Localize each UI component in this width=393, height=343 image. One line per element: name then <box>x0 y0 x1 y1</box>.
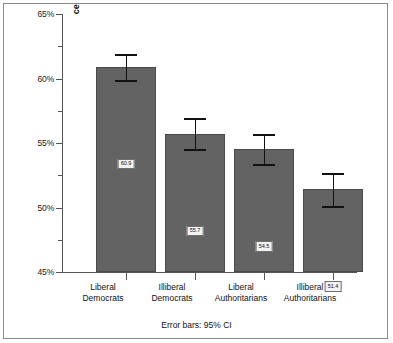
y-tick-label: 45% <box>38 267 54 277</box>
error-bar-stem <box>264 134 265 164</box>
y-axis-tick-labels: 65% 60% 55% 50% 45% <box>20 14 54 272</box>
y-tick-major <box>56 272 62 273</box>
y-tick-minor <box>58 46 62 47</box>
y-tick-label: 55% <box>38 138 54 148</box>
category-label-illiberal-authoritarians: Illiberal Authoritarians <box>284 282 336 304</box>
bar-value-label: 60.9 <box>118 159 135 170</box>
chart-screenshot: Mean Scale of Political Tolerance 65% 60… <box>0 0 393 343</box>
error-bar-stem <box>195 118 196 149</box>
error-bar-cap <box>184 149 206 151</box>
category-label-illiberal-democrats: Illiberal Democrats <box>151 282 192 304</box>
category-label-line: Liberal <box>82 282 123 293</box>
bar-value-label: 55.7 <box>187 226 204 237</box>
y-tick-major <box>56 14 62 15</box>
y-tick-minor <box>58 175 62 176</box>
error-bar-cap <box>115 80 137 82</box>
bar-value-label: 54.5 <box>256 241 273 252</box>
y-tick-major <box>56 143 62 144</box>
error-bar-cap <box>253 134 275 136</box>
error-bar-stem <box>333 173 334 207</box>
error-bar-cap <box>184 118 206 120</box>
x-tick <box>264 273 265 280</box>
x-tick <box>333 273 334 280</box>
error-bar-note: Error bars: 95% CI <box>0 320 393 330</box>
x-axis-category-labels: Liberal Democrats Illiberal Democrats Li… <box>62 282 357 314</box>
category-label-line: Illiberal <box>284 282 336 293</box>
x-tick <box>126 273 127 280</box>
bar <box>234 149 294 272</box>
y-axis-line <box>62 14 63 272</box>
y-tick-major <box>56 208 62 209</box>
category-label-line: Authoritarians <box>215 293 267 304</box>
error-bar-cap <box>322 206 344 208</box>
error-bar-cap <box>322 173 344 175</box>
y-tick-minor <box>58 111 62 112</box>
y-tick-label: 60% <box>38 74 54 84</box>
y-tick-label: 50% <box>38 203 54 213</box>
y-tick-major <box>56 79 62 80</box>
y-tick-minor <box>58 240 62 241</box>
error-bar-cap <box>115 54 137 56</box>
y-tick-label: 65% <box>38 9 54 19</box>
category-label-line: Liberal <box>215 282 267 293</box>
plot-area: 60.955.754.551.4 <box>62 14 357 272</box>
error-bar-stem <box>126 54 127 80</box>
x-axis-line <box>59 272 357 273</box>
category-label-line: Authoritarians <box>284 293 336 304</box>
category-label-line: Democrats <box>151 293 192 304</box>
category-label-liberal-authoritarians: Liberal Authoritarians <box>215 282 267 304</box>
x-tick <box>195 273 196 280</box>
error-bar-cap <box>253 164 275 166</box>
bar <box>165 134 225 272</box>
category-label-line: Illiberal <box>151 282 192 293</box>
category-label-line: Democrats <box>82 293 123 304</box>
bar <box>96 67 156 272</box>
category-label-liberal-democrats: Liberal Democrats <box>82 282 123 304</box>
